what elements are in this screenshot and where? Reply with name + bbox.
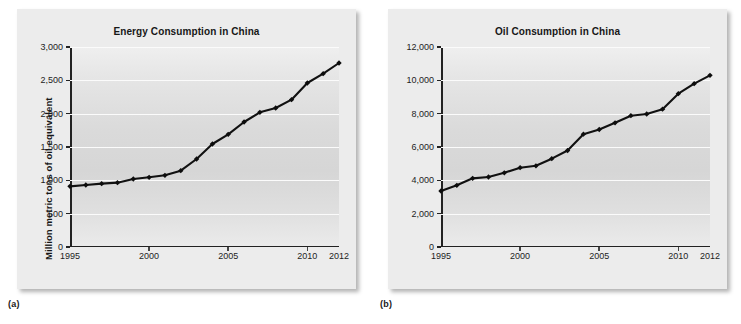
series-layer-a <box>70 47 339 247</box>
data-point-marker <box>146 175 151 180</box>
data-point-marker <box>517 165 522 170</box>
y-axis-tick-label: 10,000 <box>406 75 434 85</box>
data-point-marker <box>99 181 104 186</box>
data-point-marker <box>115 180 120 185</box>
chart-title-a: Energy Consumption in China <box>17 26 356 37</box>
x-axis-tick-label: 1995 <box>431 251 451 261</box>
data-point-marker <box>502 170 507 175</box>
plot-area-a: 05001,0001,5002,0002,5003,00019952000200… <box>70 47 339 247</box>
data-point-marker <box>131 176 136 181</box>
data-point-marker <box>162 173 167 178</box>
data-point-marker <box>83 182 88 187</box>
plot-area-b: 02,0004,0006,0008,00010,00012,0001995200… <box>441 47 710 247</box>
y-axis-tick-label: 2,500 <box>40 75 63 85</box>
y-axis-tick-label: 4,000 <box>411 175 434 185</box>
x-axis-tick-label: 2005 <box>218 251 238 261</box>
series-layer-b <box>441 47 710 247</box>
y-axis-tick-label: 1,000 <box>40 175 63 185</box>
x-axis-tick-label: 2010 <box>297 251 317 261</box>
chart-title-b: Oil Consumption in China <box>388 26 727 37</box>
y-axis-tick-label: 2,000 <box>411 209 434 219</box>
y-axis-tick-label: 8,000 <box>411 109 434 119</box>
x-axis-tick-label: 2000 <box>139 251 159 261</box>
series-line <box>70 63 339 186</box>
y-axis-tick-label: 500 <box>48 209 63 219</box>
x-axis-tick-label: 2005 <box>589 251 609 261</box>
y-axis-tick-label: 12,000 <box>406 42 434 52</box>
y-axis-tick-label: 3,000 <box>40 42 63 52</box>
data-point-marker <box>486 174 491 179</box>
figure-caption-b: (b) <box>380 299 392 309</box>
y-axis-tick-label: 2,000 <box>40 109 63 119</box>
x-axis-tick-label: 2012 <box>700 251 720 261</box>
y-axis-tick-label: 6,000 <box>411 142 434 152</box>
x-axis-tick-label: 1995 <box>60 251 80 261</box>
data-point-marker <box>644 111 649 116</box>
y-axis-tick-label: 1,500 <box>40 142 63 152</box>
series-line <box>441 75 710 191</box>
x-axis-tick-label: 2012 <box>329 251 349 261</box>
x-axis-tick-label: 2000 <box>510 251 530 261</box>
figure-container: Energy Consumption in China Million metr… <box>0 0 741 324</box>
figure-caption-a: (a) <box>8 299 20 309</box>
x-axis-tick-label: 2010 <box>668 251 688 261</box>
